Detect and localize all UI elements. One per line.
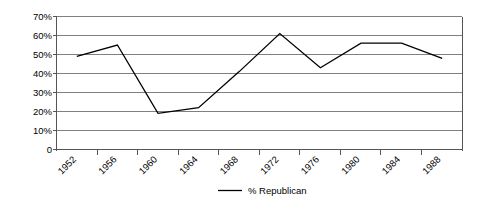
x-tick-label-1976: 1976 [298, 154, 321, 177]
y-tick-label-40: 40% [33, 68, 53, 79]
x-axis-tick-labels: 1952 1956 1960 1964 1968 1972 1976 1980 … [55, 154, 442, 177]
y-tick-label-60: 60% [33, 30, 53, 41]
y-tick-label-20: 20% [33, 106, 53, 117]
chart-container: 70% 60% 50% 40% 30% 20% 10% 0 [0, 0, 483, 212]
x-tick-label-1972: 1972 [258, 154, 281, 177]
y-tick-label-10: 10% [33, 125, 53, 136]
x-axis-tick-marks [97, 150, 421, 155]
x-tick-label-1980: 1980 [339, 154, 362, 177]
x-tick-label-1988: 1988 [420, 154, 443, 177]
y-tick-label-0: 0 [47, 144, 52, 155]
y-tick-label-70: 70% [33, 11, 53, 22]
x-tick-label-1984: 1984 [379, 154, 402, 177]
x-tick-label-1960: 1960 [136, 154, 159, 177]
x-tick-label-1964: 1964 [177, 154, 200, 177]
chart-legend: % Republican [218, 185, 307, 196]
y-tick-label-30: 30% [33, 87, 53, 98]
x-tick-label-1968: 1968 [217, 154, 240, 177]
x-tick-label-1952: 1952 [55, 154, 78, 177]
y-tick-label-50: 50% [33, 49, 53, 60]
republican-vote-share-line-chart: 70% 60% 50% 40% 30% 20% 10% 0 [0, 0, 483, 212]
y-axis-tick-labels: 70% 60% 50% 40% 30% 20% 10% 0 [33, 11, 53, 155]
legend-label-percent-republican: % Republican [248, 185, 307, 196]
x-tick-label-1956: 1956 [96, 154, 119, 177]
